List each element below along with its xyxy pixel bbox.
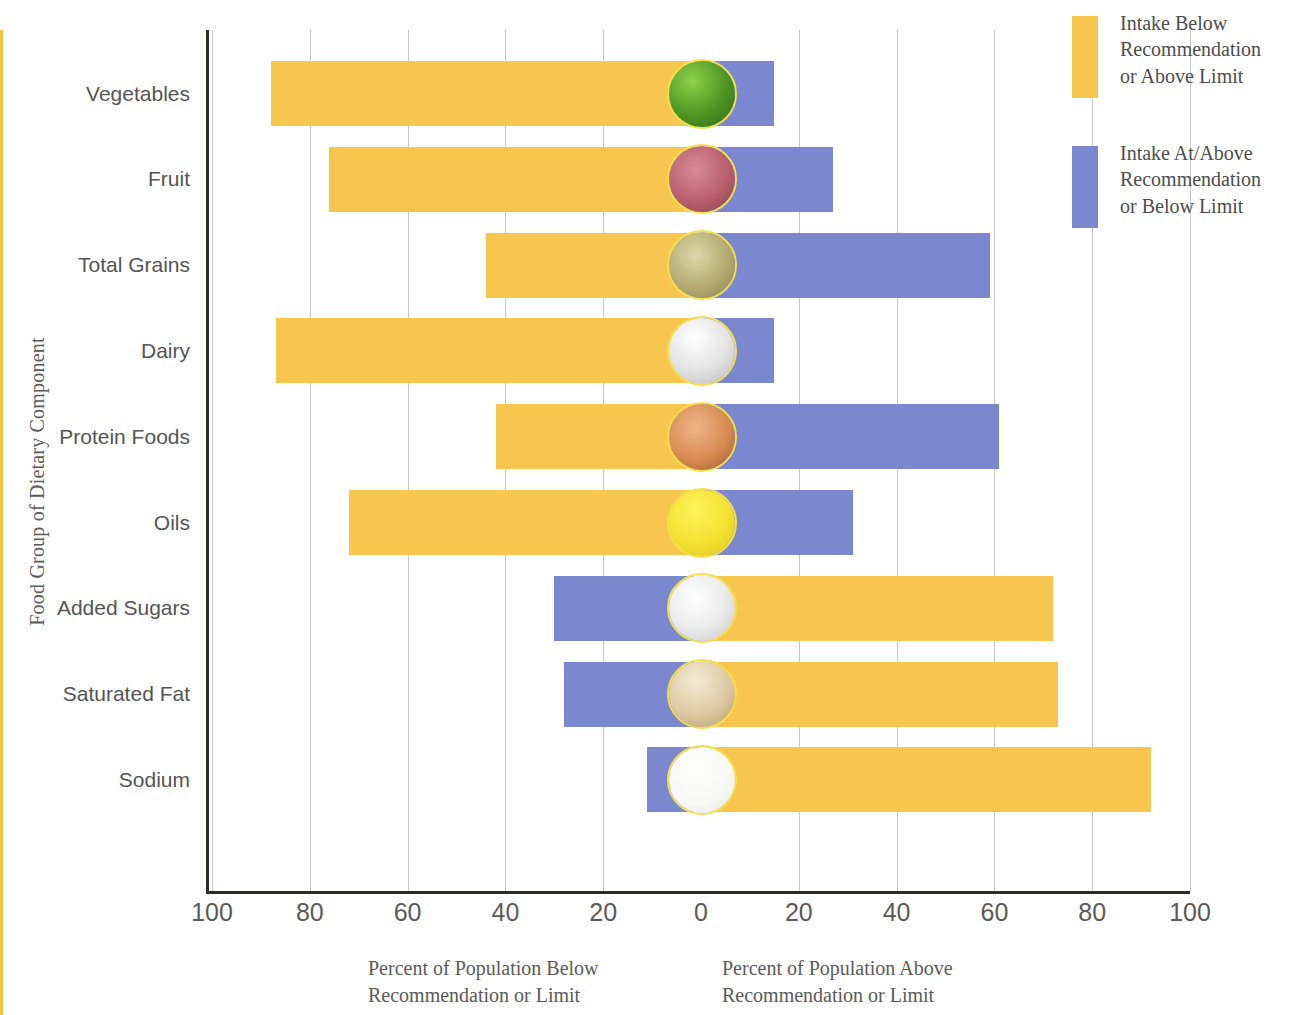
- gridline-100: [212, 30, 213, 891]
- legend-above-line3: or Below Limit: [1120, 193, 1299, 219]
- raspberries-icon-fill: [669, 146, 735, 212]
- x-tick-label: 100: [1155, 898, 1225, 927]
- bar-below-vegetables: [271, 61, 701, 126]
- x-caption-left: Percent of Population Below Recommendati…: [368, 955, 688, 1009]
- bar-above-protein-foods: [701, 404, 999, 469]
- grains-icon: [667, 230, 737, 300]
- sugar-icon: [667, 573, 737, 643]
- bar-below-dairy: [276, 318, 701, 383]
- zero-reference-line: [0, 30, 3, 928]
- x-caption-right-line1: Percent of Population Above: [722, 955, 1052, 982]
- oil-icon-fill: [669, 490, 735, 556]
- bar-above-total-grains: [701, 233, 990, 298]
- x-caption-left-line2: Recommendation or Limit: [368, 982, 688, 1009]
- y-axis-line: [206, 30, 209, 894]
- meat-icon: [667, 402, 737, 472]
- broccoli-icon-fill: [669, 61, 735, 127]
- gridline-80: [310, 30, 311, 891]
- category-label-list: VegetablesFruitTotal GrainsDairyProtein …: [0, 0, 190, 862]
- category-label-saturated-fat: Saturated Fat: [5, 683, 190, 704]
- legend-below-line3: or Above Limit: [1120, 63, 1299, 89]
- sugar-icon-fill: [669, 575, 735, 641]
- bar-below-saturated-fat: [701, 662, 1058, 727]
- category-label-protein-foods: Protein Foods: [5, 426, 190, 447]
- x-tick-label: 80: [275, 898, 345, 927]
- butter-icon: [667, 659, 737, 729]
- x-tick-label: 40: [470, 898, 540, 927]
- milk-icon: [667, 316, 737, 386]
- below-swatch-icon: [1072, 16, 1098, 98]
- x-tick-label: 80: [1057, 898, 1127, 927]
- x-axis-line: [206, 891, 1190, 894]
- category-label-added-sugars: Added Sugars: [5, 597, 190, 618]
- category-label-sodium: Sodium: [5, 769, 190, 790]
- above-swatch-icon: [1072, 146, 1098, 228]
- legend-item-below: Intake Below Recommendation or Above Lim…: [1072, 10, 1299, 106]
- bar-below-oils: [349, 490, 701, 555]
- milk-icon-fill: [669, 318, 735, 384]
- broccoli-icon: [667, 59, 737, 129]
- bar-below-added-sugars: [701, 576, 1053, 641]
- butter-icon-fill: [669, 661, 735, 727]
- x-tick-label: 20: [764, 898, 834, 927]
- legend-label-below: Intake Below Recommendation or Above Lim…: [1120, 10, 1299, 89]
- x-caption-left-line1: Percent of Population Below: [368, 955, 688, 982]
- meat-icon-fill: [669, 404, 735, 470]
- legend-item-above: Intake At/Above Recommendation or Below …: [1072, 140, 1299, 236]
- category-label-fruit: Fruit: [5, 168, 190, 189]
- category-label-oils: Oils: [5, 512, 190, 533]
- x-tick-label: 60: [373, 898, 443, 927]
- x-tick-label: 40: [862, 898, 932, 927]
- category-label-total-grains: Total Grains: [5, 254, 190, 275]
- salt-icon: [667, 745, 737, 815]
- legend-below-line2: Recommendation: [1120, 36, 1299, 62]
- x-caption-right: Percent of Population Above Recommendati…: [722, 955, 1052, 1009]
- x-caption-right-line2: Recommendation or Limit: [722, 982, 1052, 1009]
- x-tick-label: 100: [177, 898, 247, 927]
- x-tick-label: 20: [568, 898, 638, 927]
- bar-below-fruit: [329, 147, 701, 212]
- x-tick-label: 0: [666, 898, 736, 927]
- legend-above-line2: Recommendation: [1120, 166, 1299, 192]
- salt-icon-fill: [669, 747, 735, 813]
- legend-below-line1: Intake Below: [1120, 10, 1299, 36]
- category-label-vegetables: Vegetables: [5, 83, 190, 104]
- grains-icon-fill: [669, 232, 735, 298]
- oil-icon: [667, 488, 737, 558]
- chart-legend: Intake Below Recommendation or Above Lim…: [1072, 10, 1299, 270]
- diverging-bar-chart: Food Group of Dietary Component Vegetabl…: [0, 0, 1299, 1015]
- raspberries-icon: [667, 144, 737, 214]
- bar-below-sodium: [701, 747, 1151, 812]
- category-label-dairy: Dairy: [5, 340, 190, 361]
- zero-reference-line-extension: [0, 894, 3, 1015]
- x-tick-label: 60: [959, 898, 1029, 927]
- legend-above-line1: Intake At/Above: [1120, 140, 1299, 166]
- legend-label-above: Intake At/Above Recommendation or Below …: [1120, 140, 1299, 219]
